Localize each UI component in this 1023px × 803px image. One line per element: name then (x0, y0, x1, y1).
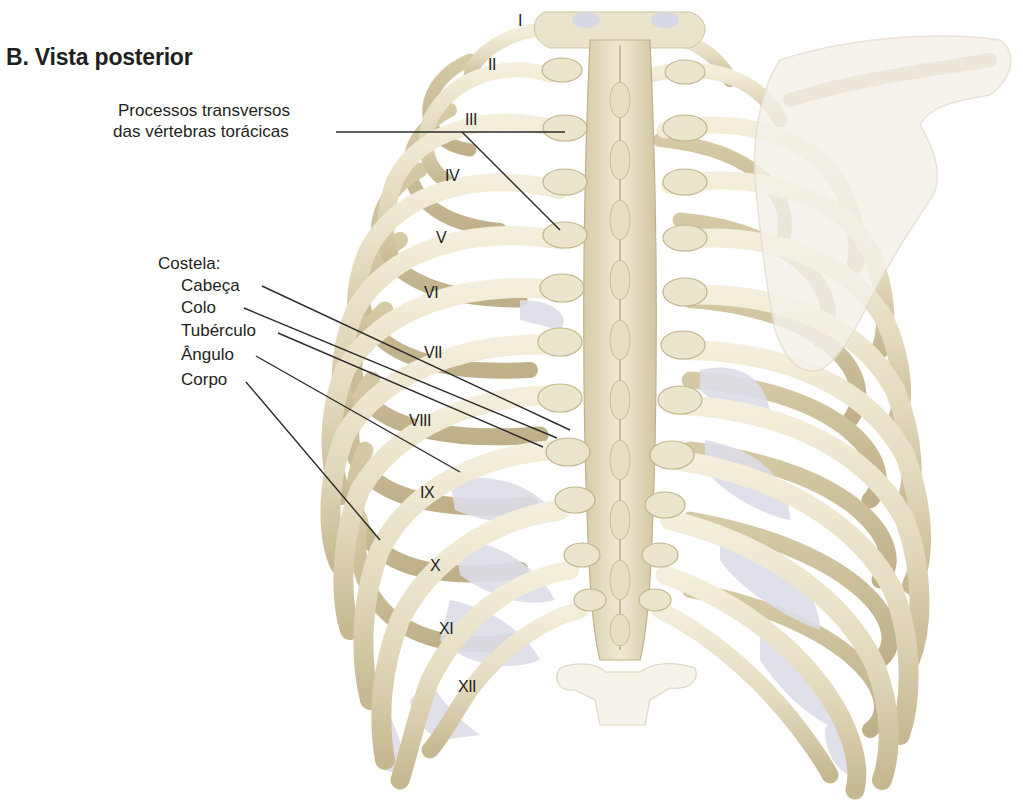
label-rib-angle: Ângulo (181, 345, 234, 365)
label-rib-neck: Colo (181, 298, 216, 318)
rib-numeral-8: VIII (409, 412, 431, 430)
rib-numeral-4: IV (445, 167, 459, 185)
label-transverse-processes-line2: das vértebras torácicas (113, 122, 289, 142)
rib-numeral-2: II (488, 56, 496, 74)
rib-numeral-5: V (436, 229, 446, 247)
rib-numeral-9: IX (420, 484, 434, 502)
rib-numeral-12: XII (458, 678, 476, 696)
rib-numeral-6: VI (424, 284, 438, 302)
rib-numeral-11: XI (439, 620, 453, 638)
label-transverse-processes-line1: Processos transversos (118, 101, 290, 121)
label-rib-body: Corpo (181, 370, 227, 390)
label-rib-heading: Costela: (158, 254, 220, 274)
label-rib-head: Cabeça (181, 276, 240, 296)
rib-numeral-7: VII (424, 344, 442, 362)
rib-numeral-3: III (465, 111, 477, 129)
thoracic-cage-figure: B. Vista posterior Processos transversos… (0, 0, 1023, 803)
rib-numeral-10: X (430, 557, 440, 575)
figure-title: B. Vista posterior (6, 44, 192, 71)
lumbar-vertebra (557, 664, 696, 725)
label-rib-tubercle: Tubérculo (181, 321, 256, 341)
rib-numeral-1: I (518, 12, 522, 30)
